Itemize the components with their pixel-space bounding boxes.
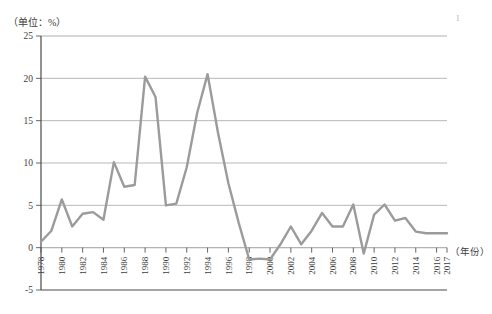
xtick-label: 1994 (203, 256, 213, 275)
xtick-label: 2008 (349, 256, 359, 275)
ytick-label: 5 (28, 201, 33, 211)
xtick-label: 2006 (328, 256, 338, 275)
ytick-label: 15 (24, 116, 34, 126)
x-axis-title: （年份） (450, 246, 490, 257)
xtick-label: 1988 (140, 256, 150, 275)
ytick-label: 20 (24, 74, 34, 84)
xtick-label: 1984 (99, 256, 109, 275)
xtick-label: 2004 (307, 256, 317, 275)
xtick-label: 1986 (119, 256, 129, 275)
xtick-label: 1978 (36, 256, 46, 275)
chart-container: （单位：%） 1 -505101520251978198019821984198… (0, 0, 492, 314)
ytick-label: 10 (24, 158, 34, 168)
data-series-line (41, 74, 447, 259)
xtick-label: 2012 (390, 257, 400, 275)
xtick-label: 2017 (442, 256, 452, 275)
xtick-label: 1996 (224, 256, 234, 275)
xtick-label: 1990 (161, 256, 171, 275)
xtick-label: 1992 (182, 257, 192, 275)
xtick-label: 1980 (57, 256, 67, 275)
xtick-label: 2010 (369, 256, 379, 275)
xtick-label: 2016 (432, 256, 442, 275)
xtick-label: 2002 (286, 257, 296, 275)
ytick-label: 0 (28, 243, 33, 253)
xtick-label: 1982 (78, 257, 88, 275)
xtick-label: 2014 (411, 256, 421, 275)
ytick-label: 25 (24, 31, 34, 41)
line-chart-plot: -505101520251978198019821984198619881990… (0, 0, 492, 314)
ytick-label: -5 (25, 285, 33, 295)
